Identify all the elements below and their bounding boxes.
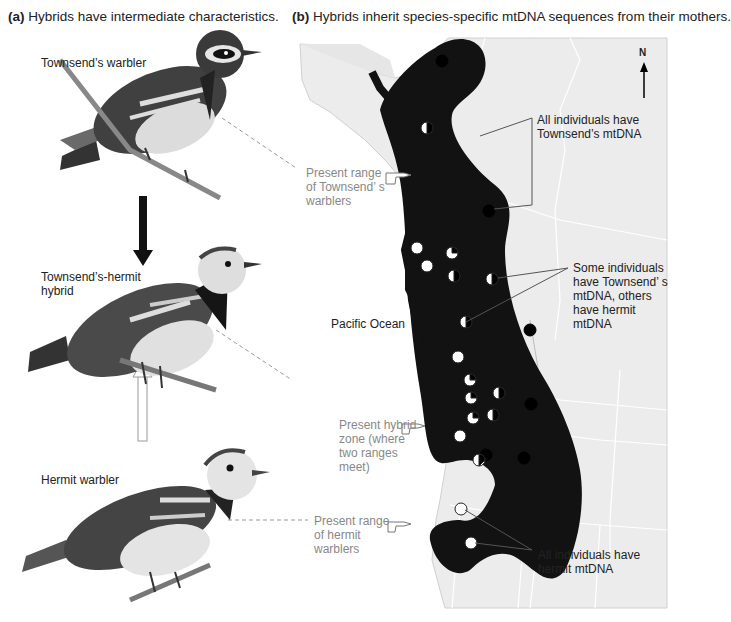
callout-line: meet) (339, 460, 416, 474)
label-hermit-warbler: Hermit warbler (41, 473, 119, 487)
annotation-line: Townsend’s mtDNA (537, 127, 641, 141)
callout-townsend-range: Present range of Townsend’ s warblers (306, 166, 385, 208)
label-townsend-warbler: Townsend’s warbler (41, 56, 146, 70)
ocean-label: Pacific Ocean (331, 317, 405, 331)
annotation-line: hermit mtDNA (538, 562, 640, 576)
callout-line: zone (where (339, 432, 416, 446)
annotation-line: All individuals have (537, 113, 641, 127)
callout-line: Present hybrid (339, 418, 416, 432)
annotation-hermit-mtdna: All individuals have hermit mtDNA (538, 548, 640, 576)
annotation-line: have hermit (573, 303, 668, 317)
annotation-line: have Townsend’ s (573, 275, 668, 289)
callout-line: of hermit (314, 528, 389, 542)
callout-line: warblers (306, 194, 385, 208)
down-arrow (133, 196, 153, 266)
label-line: Townsend’s-hermit (41, 270, 141, 284)
annotation-line: mtDNA (573, 317, 668, 331)
callout-line: two ranges (339, 446, 416, 460)
label-text: Townsend’s warbler (41, 56, 146, 70)
annotation-mixed-mtdna: Some individuals have Townsend’ s mtDNA,… (573, 261, 668, 331)
ocean-text: Pacific Ocean (331, 317, 405, 331)
annotation-line: mtDNA, others (573, 289, 668, 303)
compass-letter: N (639, 47, 646, 58)
callout-line: Present range (314, 514, 389, 528)
label-hybrid-warbler: Townsend’s-hermit hybrid (41, 270, 141, 298)
annotation-line: Some individuals (573, 261, 668, 275)
compass-north-label: N (639, 47, 646, 58)
annotation-line: All individuals have (538, 548, 640, 562)
label-text: Hermit warbler (41, 473, 119, 487)
hybrid-warbler-illustration (28, 246, 262, 396)
callout-line: warblers (314, 542, 389, 556)
callout-hybrid-zone: Present hybrid zone (where two ranges me… (339, 418, 416, 474)
callout-line: of Townsend’ s (306, 180, 385, 194)
label-line: hybrid (41, 284, 141, 298)
callout-line: Present range (306, 166, 385, 180)
annotation-townsend-mtdna: All individuals have Townsend’s mtDNA (537, 113, 641, 141)
callout-hermit-range: Present range of hermit warblers (314, 514, 389, 556)
